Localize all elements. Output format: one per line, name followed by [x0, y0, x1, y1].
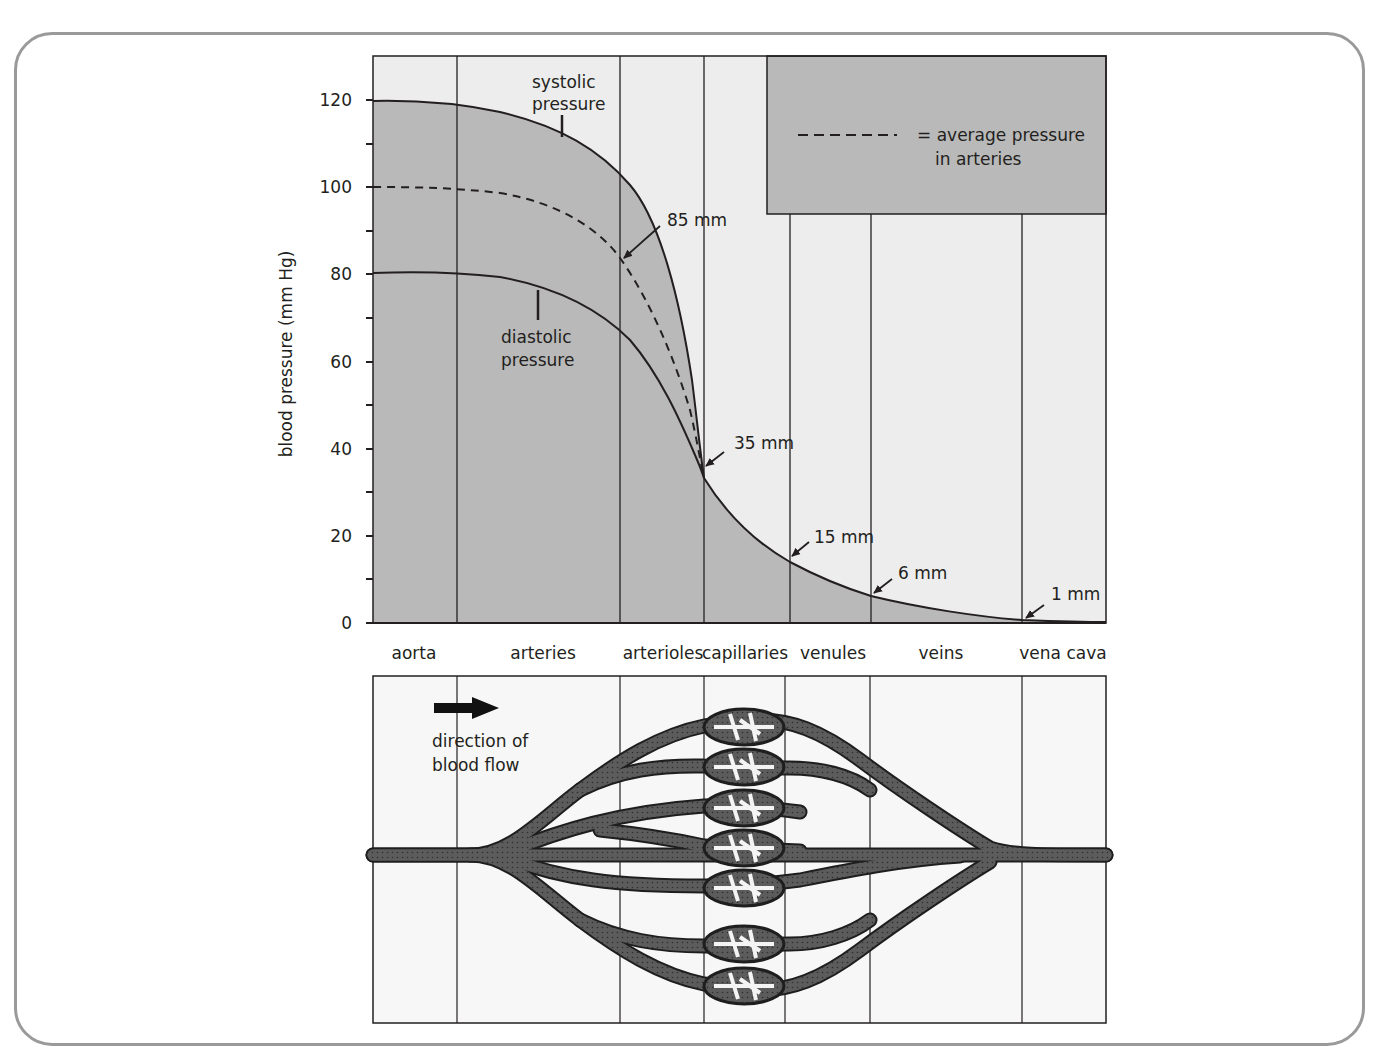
capillary-bed — [704, 830, 784, 866]
capillary-bed — [704, 968, 784, 1004]
flow-label-line2: blood flow — [432, 755, 520, 775]
y-tick-80: 80 — [330, 264, 352, 284]
flow-label-line1: direction of — [432, 731, 529, 751]
y-axis-tick-labels: 0 20 40 60 80 100 120 — [320, 90, 352, 633]
y-tick-120: 120 — [320, 90, 352, 110]
y-axis-ticks — [366, 100, 373, 623]
y-tick-40: 40 — [330, 439, 352, 459]
y-tick-60: 60 — [330, 352, 352, 372]
pressure-chart: = average pressure in arteries systolic … — [276, 56, 1107, 663]
legend-label-line2: in arteries — [935, 149, 1022, 169]
annotation-1: 1 mm — [1051, 584, 1100, 604]
annotation-85: 85 mm — [667, 210, 727, 230]
capillary-bed — [704, 709, 784, 745]
annotation-6: 6 mm — [898, 563, 947, 583]
category-venules: venules — [800, 643, 866, 663]
capillary-bed — [704, 926, 784, 962]
capillary-bed — [704, 870, 784, 906]
diastolic-label-line1: diastolic — [501, 327, 572, 347]
y-tick-0: 0 — [341, 613, 352, 633]
category-veins: veins — [919, 643, 964, 663]
capillary-bed — [704, 749, 784, 785]
category-arterioles: arterioles — [623, 643, 704, 663]
vessel-network-panel: direction of blood flow — [373, 676, 1106, 1023]
legend-label-line1: = average pressure — [917, 125, 1085, 145]
systolic-label-line1: systolic — [532, 72, 596, 92]
blood-pressure-diagram: = average pressure in arteries systolic … — [0, 0, 1383, 1059]
annotation-35: 35 mm — [734, 433, 794, 453]
y-axis-label: blood pressure (mm Hg) — [276, 251, 296, 458]
category-aorta: aorta — [392, 643, 437, 663]
systolic-label-line2: pressure — [532, 94, 605, 114]
category-capillaries: capillaries — [702, 643, 788, 663]
category-arteries: arteries — [510, 643, 576, 663]
capillary-bed — [704, 790, 784, 826]
diastolic-label-line2: pressure — [501, 350, 574, 370]
y-tick-100: 100 — [320, 177, 352, 197]
category-labels: aorta arteries arterioles capillaries ve… — [392, 643, 1107, 663]
category-vena-cava: vena cava — [1019, 643, 1106, 663]
y-tick-20: 20 — [330, 526, 352, 546]
annotation-15: 15 mm — [814, 527, 874, 547]
